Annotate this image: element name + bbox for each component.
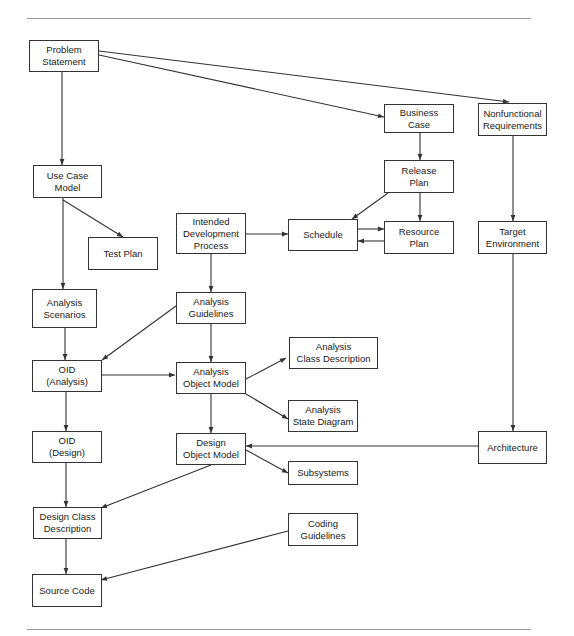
node-resource-plan: Resource Plan — [384, 221, 454, 254]
node-oid-analysis: OID (Analysis) — [32, 360, 102, 392]
node-schedule: Schedule — [288, 219, 358, 251]
node-coding-guidelines: Coding Guidelines — [288, 513, 358, 546]
node-release-plan: Release Plan — [384, 160, 454, 193]
node-analysis-class-description: Analysis Class Description — [289, 337, 378, 369]
edge-aom-to-classdesc — [246, 358, 286, 379]
node-analysis-state-diagram: Analysis State Diagram — [288, 400, 358, 432]
edge-release-to-schedule — [352, 193, 388, 219]
node-intended-development-process: Intended Development Process — [176, 213, 246, 254]
node-design-class-description: Design Class Description — [33, 507, 102, 539]
node-analysis-object-model: Analysis Object Model — [176, 362, 246, 394]
node-business-case: Business Case — [384, 104, 454, 133]
edge-dom-to-designclass — [101, 465, 211, 508]
edge-aom-to-statediagram — [246, 394, 288, 419]
node-test-plan: Test Plan — [88, 237, 158, 270]
node-source-code: Source Code — [32, 574, 102, 607]
node-oid-design: OID (Design) — [32, 431, 102, 463]
edge-guidelines-to-oidanalysis — [102, 306, 176, 360]
edge-problem-to-nonfunctional — [99, 51, 509, 102]
edge-problem-to-business — [99, 55, 384, 117]
node-problem-statement: Problem Statement — [29, 40, 99, 72]
edge-dom-to-subsystems — [246, 450, 288, 473]
node-design-object-model: Design Object Model — [176, 433, 246, 465]
node-analysis-scenarios: Analysis Scenarios — [32, 289, 97, 328]
node-nonfunctional-requirements: Nonfunctional Requirements — [478, 103, 547, 136]
node-subsystems: Subsystems — [288, 461, 358, 485]
node-use-case-model: Use Case Model — [33, 165, 102, 198]
node-architecture: Architecture — [478, 431, 547, 464]
edge-usecase-to-testplan — [63, 200, 123, 237]
node-target-environment: Target Environment — [478, 221, 547, 254]
node-analysis-guidelines: Analysis Guidelines — [176, 292, 246, 324]
edge-coding-to-sourcecode — [101, 531, 288, 580]
